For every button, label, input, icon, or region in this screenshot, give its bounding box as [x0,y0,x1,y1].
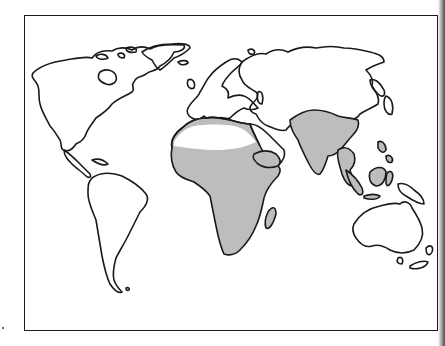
iceland [178,61,188,65]
north-america [32,45,184,151]
page-edge-shadow [438,0,445,346]
falklands [126,288,129,291]
central-america [64,150,91,177]
caspian-sea [257,92,263,104]
greenland [142,44,190,70]
australia [353,202,423,253]
novaya-zemlya [248,49,255,54]
hudson-bay [98,70,116,85]
madagascar [265,208,276,229]
new-guinea [398,183,424,204]
tasmania [397,257,403,264]
scan-artifact-dot [2,327,4,329]
japan [384,96,393,114]
south-america [88,173,148,292]
caribbean [92,159,108,165]
borneo [369,168,386,187]
sulawesi [386,171,393,185]
philippines [378,141,393,162]
british-isles [187,79,194,88]
new-zealand [410,246,433,269]
europe [187,59,258,120]
world-map [0,0,445,346]
java [364,195,380,200]
